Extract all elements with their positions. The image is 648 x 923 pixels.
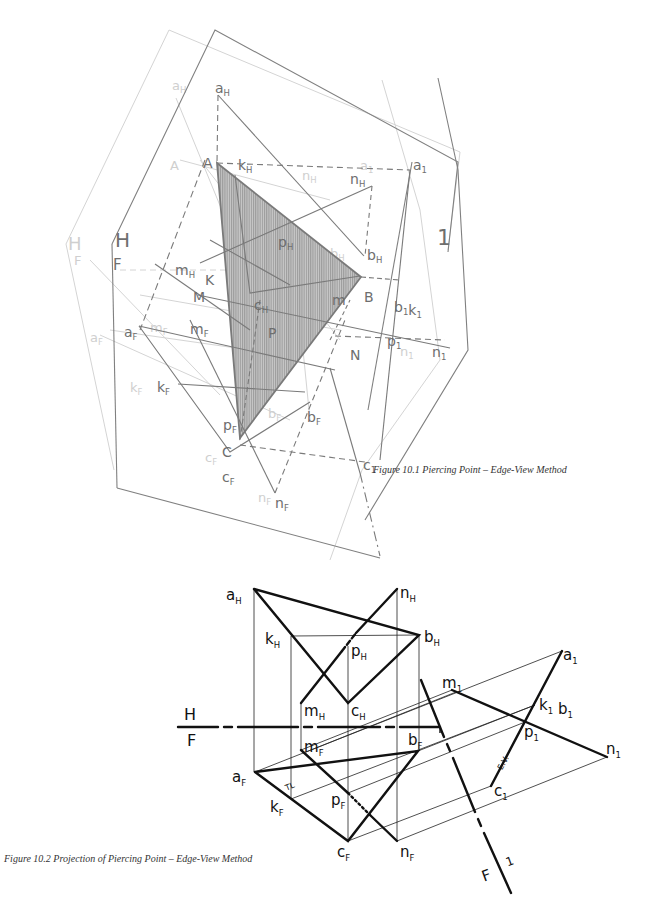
svg-text:aF: aF [232, 768, 246, 788]
fold-label-H: H [184, 705, 196, 724]
fold-label-1: 1 [504, 853, 516, 869]
svg-text:nF: nF [400, 843, 415, 863]
figure-10-1-caption: Figure 10.1 Piercing Point – Edge-View M… [373, 464, 567, 475]
projector-lines [254, 589, 607, 841]
svg-text:kH: kH [265, 630, 280, 650]
svg-text:a1: a1 [413, 157, 427, 175]
svg-text:m: m [332, 292, 346, 308]
svg-text:pH: pH [351, 642, 367, 662]
svg-text:kF: kF [130, 380, 143, 397]
edge-view-mark: E.V. [496, 754, 511, 771]
svg-text:aH: aH [226, 586, 242, 606]
true-length-mark: TL [283, 780, 296, 792]
svg-text:m1: m1 [442, 674, 462, 694]
svg-text:pF: pF [331, 791, 346, 811]
svg-text:c1: c1 [494, 782, 508, 802]
svg-text:nH: nH [400, 584, 416, 604]
svg-text:bF: bF [268, 406, 281, 423]
svg-text:bH: bH [424, 628, 440, 648]
svg-text:kH: kH [238, 157, 253, 175]
figure-10-2-caption: Figure 10.2 Projection of Piercing Point… [4, 853, 252, 864]
frontal-plane-bottom [117, 488, 380, 558]
svg-text:cH: cH [351, 702, 366, 722]
point-A: A [203, 155, 213, 171]
svg-text:k1 b1: k1 b1 [539, 696, 573, 720]
svg-text:cF: cF [205, 450, 217, 467]
svg-text:bF: bF [408, 731, 423, 751]
svg-text:F: F [74, 253, 81, 268]
svg-text:a1: a1 [360, 158, 373, 175]
svg-text:bH: bH [367, 247, 382, 265]
svg-text:p1: p1 [387, 333, 401, 351]
svg-text:n1: n1 [606, 740, 621, 760]
plane-label-1: 1 [437, 225, 451, 250]
svg-text:mF: mF [190, 321, 209, 339]
svg-text:cF: cF [222, 469, 235, 487]
svg-text:a1: a1 [563, 646, 578, 666]
svg-text:b1k1: b1k1 [394, 299, 422, 320]
point-P: P [268, 325, 276, 341]
svg-text:nF: nF [275, 495, 289, 513]
svg-text:nF: nF [258, 490, 271, 507]
point-N: N [350, 347, 360, 363]
point-B: B [364, 289, 374, 305]
svg-text:p1: p1 [524, 723, 539, 743]
svg-text:cF: cF [337, 843, 350, 863]
figure-10-1-pictorial: aH A nH a1 H F aF mF kF cF nF bF bH n1 [0, 0, 648, 560]
point-K: K [205, 272, 215, 288]
fold-label-F-aux: F [479, 866, 493, 886]
svg-text:mH: mH [175, 262, 195, 280]
svg-text:n1: n1 [400, 344, 414, 361]
svg-text:nH: nH [302, 168, 317, 185]
svg-text:mF: mF [150, 320, 168, 337]
svg-text:aF: aF [90, 330, 103, 347]
svg-text:bF: bF [307, 409, 321, 427]
svg-text:A: A [170, 158, 179, 173]
svg-text:mF: mF [304, 738, 324, 758]
figure-2-labels: aH nH kH bH pH mH cH H F mF bF aF kF pF … [184, 584, 621, 886]
svg-text:H: H [68, 233, 82, 254]
plane-label-H: H [115, 228, 130, 252]
svg-text:aH: aH [172, 78, 186, 95]
fold-label-F: F [187, 731, 196, 750]
svg-text:aH: aH [215, 80, 230, 98]
point-C: C [222, 444, 232, 460]
svg-text:pF: pF [223, 417, 237, 435]
svg-text:nH: nH [350, 171, 365, 189]
svg-text:mH: mH [304, 702, 325, 722]
svg-text:kF: kF [157, 379, 170, 397]
plane-label-F: F [113, 256, 122, 274]
point-M: M [193, 289, 205, 305]
object-lines [178, 589, 607, 893]
svg-text:aF: aF [124, 324, 138, 342]
svg-text:kF: kF [270, 798, 284, 818]
